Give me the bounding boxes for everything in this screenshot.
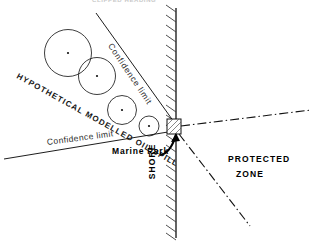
confidence-limit-upper-line: [96, 13, 174, 122]
diagram-canvas: [0, 0, 313, 246]
protected-zone-label-line1: PROTECTED: [228, 155, 290, 164]
marine-park-box: [167, 119, 181, 134]
marine-park-label: Marine Park: [112, 147, 169, 156]
protected-zone-boundary-upper: [181, 110, 311, 126]
shore-label: SHORE: [148, 144, 157, 180]
oil-spill-diagram: CLIPPED HEADING Confidence limit Confide…: [0, 0, 313, 246]
clipped-heading-text: CLIPPED HEADING: [92, 0, 156, 3]
protected-zone-label-line2: ZONE: [236, 170, 264, 179]
protected-zone-boundary-lower: [179, 134, 250, 226]
